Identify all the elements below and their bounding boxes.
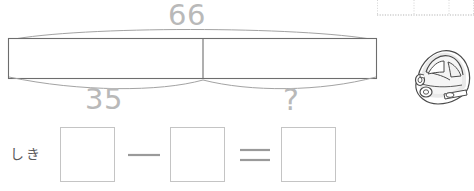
tape-total-label: 66 bbox=[168, 0, 206, 32]
answer-box-difference[interactable] bbox=[281, 127, 336, 182]
tape-part-b-label: ? bbox=[283, 82, 299, 117]
car-front-hubcap bbox=[418, 77, 422, 82]
car-illustration bbox=[404, 42, 474, 118]
dot-grid bbox=[377, 0, 474, 17]
answer-box-minuend[interactable] bbox=[60, 127, 115, 182]
minus-operator-icon bbox=[126, 127, 162, 182]
equation-label: しき bbox=[10, 143, 42, 163]
tape-bar-outline bbox=[9, 39, 377, 79]
tape-part-a-label: 35 bbox=[85, 82, 123, 116]
car-mirror bbox=[420, 74, 424, 78]
equals-operator-icon bbox=[237, 127, 273, 182]
car-rear-hubcap bbox=[423, 90, 428, 94]
equation-row: しき bbox=[0, 123, 360, 191]
worksheet-page: 66 35 ? しき bbox=[0, 0, 474, 191]
answer-box-subtrahend[interactable] bbox=[170, 127, 225, 182]
car-headlight bbox=[446, 93, 454, 98]
